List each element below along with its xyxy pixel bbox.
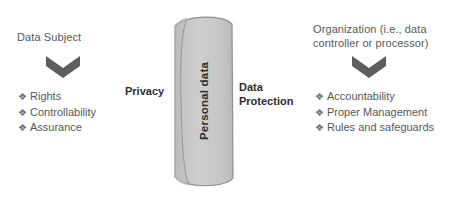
privacy-data-protection-diagram: Data Subject ❖ Rights ❖ Controllability … [0, 0, 459, 201]
list-item-label: Proper Management [327, 105, 427, 121]
list-item-label: Rights [30, 89, 61, 105]
data-protection-label-line2: Protection [239, 95, 293, 107]
floret-bullet-icon: ❖ [18, 105, 30, 121]
floret-bullet-icon: ❖ [315, 89, 327, 105]
list-item-label: Accountability [327, 89, 395, 105]
chevron-down-icon [46, 56, 80, 78]
list-item: ❖ Assurance [18, 120, 96, 136]
list-item-label: Assurance [30, 120, 82, 136]
organization-list: ❖ Accountability ❖ Proper Management ❖ R… [315, 89, 434, 136]
cylinder-icon [170, 10, 238, 192]
organization-heading-line1: Organization (i.e., data [313, 23, 427, 35]
floret-bullet-icon: ❖ [18, 89, 30, 105]
data-protection-label-line1: Data [239, 81, 263, 93]
data-subject-list: ❖ Rights ❖ Controllability ❖ Assurance [18, 89, 96, 136]
list-item: ❖ Proper Management [315, 105, 434, 121]
organization-heading-line2: controller or processor) [313, 37, 429, 49]
personal-data-cylinder: Personal data [170, 10, 238, 192]
data-subject-heading: Data Subject [17, 30, 81, 44]
organization-heading: Organization (i.e., data controller or p… [313, 22, 429, 50]
list-item-label: Rules and safeguards [327, 120, 434, 136]
floret-bullet-icon: ❖ [315, 120, 327, 136]
list-item: ❖ Controllability [18, 105, 96, 121]
list-item: ❖ Accountability [315, 89, 434, 105]
list-item-label: Controllability [30, 105, 96, 121]
chevron-down-icon [352, 56, 386, 78]
privacy-label: Privacy [125, 85, 164, 99]
data-protection-label: Data Protection [239, 81, 293, 108]
floret-bullet-icon: ❖ [315, 105, 327, 121]
list-item: ❖ Rights [18, 89, 96, 105]
floret-bullet-icon: ❖ [18, 120, 30, 136]
list-item: ❖ Rules and safeguards [315, 120, 434, 136]
